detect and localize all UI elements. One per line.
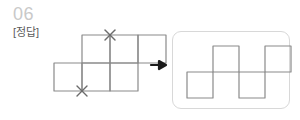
arrow-right-glyph (151, 61, 166, 69)
net-cell (110, 63, 138, 91)
arrow-block (150, 58, 172, 72)
source-figure-svg (52, 33, 144, 95)
result-figure (186, 45, 278, 99)
result-cell (265, 46, 291, 72)
answer-label: [정답] (13, 26, 39, 39)
result-cell (239, 72, 265, 98)
result-cell (187, 72, 213, 98)
arrow-right-icon (150, 58, 172, 72)
answer-figure-screen: 06 [정답] (0, 0, 300, 120)
source-figure (52, 33, 144, 95)
result-figure-svg (186, 45, 278, 99)
result-figure-panel (172, 31, 290, 109)
result-cell (213, 46, 239, 72)
arrow-right-path (151, 61, 166, 69)
problem-number: 06 (13, 4, 34, 24)
